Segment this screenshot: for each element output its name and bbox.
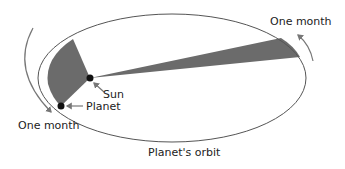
planet-dot: [58, 103, 65, 110]
area-wedge-left: [48, 39, 90, 106]
planet-label: Planet: [86, 101, 120, 112]
motion-arrow-left: [25, 28, 51, 112]
one-month-label-left: One month: [18, 120, 80, 131]
area-wedge-right: [90, 38, 300, 78]
orbit-label: Planet's orbit: [148, 147, 220, 158]
sun-label: Sun: [103, 89, 124, 100]
kepler-diagram: Sun Planet One month One month Planet's …: [0, 0, 345, 169]
one-month-label-right: One month: [270, 16, 332, 27]
sun-dot: [87, 75, 94, 82]
motion-arrow-right: [298, 35, 313, 61]
